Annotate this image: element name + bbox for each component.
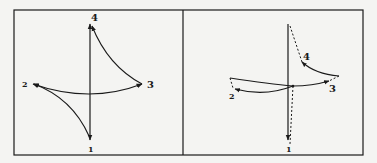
label-4: 4 [91,12,98,23]
label-1: 1 [88,144,94,154]
label-3: 3 [329,83,336,94]
dashed-right [329,76,339,81]
curve-to-4 [302,62,339,76]
dashed-bottom [290,86,293,144]
curve-to-3 [230,78,329,86]
label-2: 2 [229,91,235,101]
dashed-top [290,26,302,62]
center-point [292,85,295,88]
label-4: 4 [303,51,310,62]
left-panel: 4 3 2 1 [22,12,154,154]
label-2: 2 [22,79,28,89]
right-panel: 4 3 2 1 [229,24,339,154]
dashed-left [230,78,233,88]
label-1: 1 [286,144,292,154]
figure-frame [14,10,363,155]
label-3: 3 [147,79,154,90]
curve-3-4 [92,26,142,84]
curve-2-3 [33,84,142,94]
figure: 4 3 2 1 4 3 2 1 [0,0,377,163]
curve-to-2 [235,86,293,92]
